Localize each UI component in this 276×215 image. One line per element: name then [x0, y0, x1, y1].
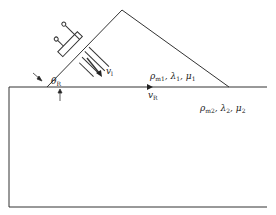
- wedge-prism: [47, 10, 229, 87]
- medium1-properties-label: ρm1, λ1, μ1: [150, 72, 196, 82]
- rayleigh-velocity-label: vR: [148, 91, 158, 101]
- wave-velocity-label: vl: [106, 67, 113, 77]
- transducer: [46, 20, 83, 57]
- medium2-properties-label: ρm2, λ2, μ2: [200, 104, 246, 114]
- lead-wire-1: [58, 40, 64, 46]
- angle-label: θR: [51, 77, 61, 87]
